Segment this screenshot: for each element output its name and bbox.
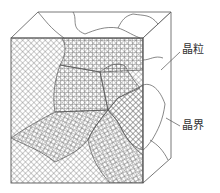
- grain-boundary-label: 晶界: [182, 120, 204, 132]
- right-face: [143, 12, 171, 183]
- grain-structure-diagram: [0, 0, 220, 193]
- grain-label: 晶粒: [182, 44, 204, 56]
- front-face: [11, 38, 143, 183]
